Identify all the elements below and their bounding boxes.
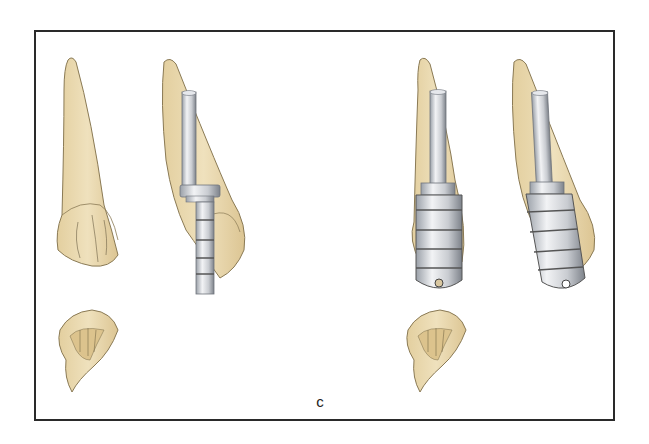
tooth-labial-with-sleeve [412,58,464,288]
tooth-proximal-with-post [162,59,244,294]
tooth-incisal-plain [59,310,118,392]
panel-label: c [310,393,330,410]
tooth-incisal-second [407,310,466,392]
dental-illustration [0,0,649,444]
tooth-labial-plain [57,58,118,266]
tooth-proximal-with-sleeve [512,59,594,288]
